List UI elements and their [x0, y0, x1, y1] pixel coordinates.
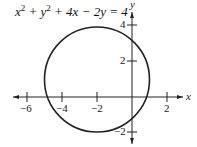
xtick-label: −6 [20, 102, 32, 114]
y-axis-label: y [130, 0, 135, 10]
plot-area [0, 0, 197, 147]
xtick-label: −4 [56, 102, 68, 114]
circle-curve [45, 27, 150, 132]
equation-title: x2 + y2 + 4x − 2y = 4 [15, 3, 128, 20]
ytick-label: 4 [120, 18, 126, 30]
ytick-label: −2 [114, 125, 126, 137]
x-axis-right-arrow-icon [177, 95, 183, 99]
x-axis-left-arrow-icon [13, 95, 19, 99]
ytick-label: 2 [120, 54, 126, 66]
x-axis-label: x [186, 90, 191, 102]
chart: x2 + y2 + 4x − 2y = 4 x y −6 −4 −2 2 4 2… [0, 0, 197, 147]
xtick-label: −2 [91, 102, 103, 114]
xtick-label: 2 [164, 102, 170, 114]
y-axis-up-arrow-icon [130, 12, 134, 18]
y-axis-down-arrow-icon [130, 138, 134, 144]
